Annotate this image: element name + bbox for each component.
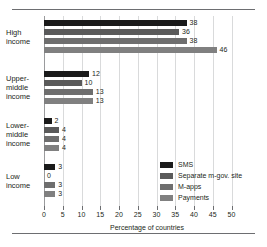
tick-label-15: 15 (96, 211, 104, 218)
tick-label-30: 30 (153, 211, 161, 218)
gridline-0 (44, 16, 45, 206)
bar (44, 127, 59, 133)
tick-label-10: 10 (78, 211, 86, 218)
legend-item[interactable]: Separate m-gov. site (160, 170, 242, 181)
tick-mark-40 (194, 206, 195, 210)
x-axis-title: Percentage of countries (44, 224, 250, 231)
tick-label-50: 50 (228, 211, 236, 218)
bar (44, 145, 59, 151)
tick-label-25: 25 (134, 211, 142, 218)
category-label-line: middle (6, 83, 42, 92)
bar (44, 47, 217, 53)
category-label: Upper-middleincome (6, 74, 42, 101)
category-label: Highincome (6, 28, 42, 46)
legend-label: Payments (178, 194, 209, 202)
legend-swatch (160, 195, 173, 201)
tick-mark-10 (82, 206, 83, 210)
chart-legend: SMSSeparate m-gov. siteM-appsPayments (160, 159, 242, 203)
legend-item[interactable]: SMS (160, 159, 242, 170)
bar (44, 98, 93, 104)
gridline-10 (82, 16, 83, 206)
gridline-20 (119, 16, 120, 206)
tick-mark-35 (175, 206, 176, 210)
tick-mark-0 (44, 206, 45, 210)
bar (44, 71, 89, 77)
category-label-line: Lower- (6, 121, 42, 130)
bar (44, 38, 187, 44)
bar (44, 89, 93, 95)
bar-value-label: 38 (190, 36, 198, 46)
bar-value-label: 3 (58, 189, 62, 199)
bar (44, 29, 179, 35)
legend-swatch (160, 184, 173, 190)
x-axis-ticks: 05101520253035404550 (44, 206, 250, 226)
category-label-line: middle (6, 130, 42, 139)
legend-label: Separate m-gov. site (178, 172, 242, 180)
tick-mark-25 (138, 206, 139, 210)
bar-value-label: 3 (58, 162, 62, 172)
bottom-rule (12, 233, 255, 234)
bar (44, 164, 55, 170)
tick-label-45: 45 (209, 211, 217, 218)
bar (44, 191, 55, 197)
gridline-30 (157, 16, 158, 206)
category-label-line: High (6, 28, 42, 37)
legend-item[interactable]: Payments (160, 192, 242, 203)
bar-value-label: 38 (190, 18, 198, 28)
tick-mark-30 (157, 206, 158, 210)
tick-label-40: 40 (190, 211, 198, 218)
bar (44, 118, 52, 124)
chart-figure: 383638461210131324443033 HighincomeUpper… (0, 0, 267, 247)
legend-swatch (160, 173, 173, 179)
top-rule (12, 9, 255, 10)
tick-mark-5 (63, 206, 64, 210)
bar-value-label: 10 (85, 78, 93, 88)
tick-label-35: 35 (171, 211, 179, 218)
bar (44, 136, 59, 142)
legend-swatch (160, 162, 173, 168)
bar-value-label: 0 (47, 171, 51, 181)
legend-label: SMS (178, 161, 193, 169)
category-label-line: income (6, 92, 42, 101)
legend-label: M-apps (178, 183, 201, 191)
category-label-line: income (6, 139, 42, 148)
bar (44, 20, 187, 26)
bar-value-label: 4 (62, 143, 66, 153)
category-label-line: income (6, 181, 42, 190)
tick-mark-45 (213, 206, 214, 210)
tick-label-0: 0 (42, 211, 46, 218)
tick-label-20: 20 (115, 211, 123, 218)
bar (44, 80, 82, 86)
category-label-line: Low (6, 172, 42, 181)
tick-mark-50 (232, 206, 233, 210)
legend-item[interactable]: M-apps (160, 181, 242, 192)
tick-mark-15 (100, 206, 101, 210)
category-label: Lower-middleincome (6, 121, 42, 148)
bar-value-label: 2 (55, 116, 59, 126)
bar-value-label: 46 (220, 45, 228, 55)
tick-label-5: 5 (61, 211, 65, 218)
bar (44, 182, 55, 188)
gridline-15 (100, 16, 101, 206)
gridline-5 (63, 16, 64, 206)
category-label: Lowincome (6, 172, 42, 190)
tick-mark-20 (119, 206, 120, 210)
bar-value-label: 13 (96, 96, 104, 106)
category-label-line: Upper- (6, 74, 42, 83)
category-label-line: income (6, 37, 42, 46)
gridline-25 (138, 16, 139, 206)
bar-value-label: 12 (92, 69, 100, 79)
